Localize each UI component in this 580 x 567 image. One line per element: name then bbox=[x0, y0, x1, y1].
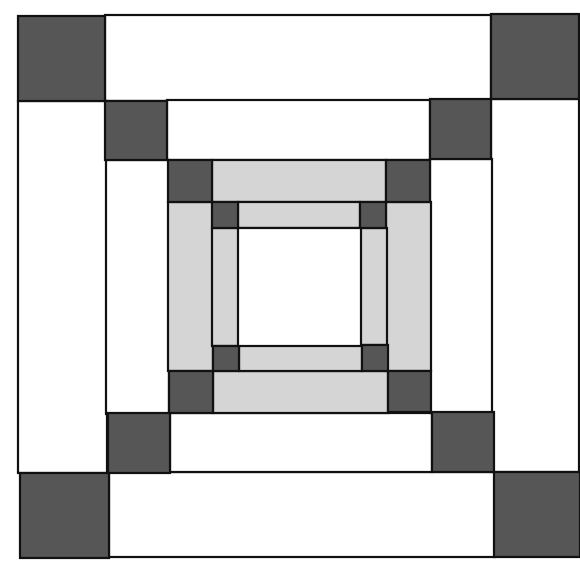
ring3-corner-tr bbox=[386, 160, 430, 202]
ring3-corner-tl bbox=[168, 160, 212, 202]
ring3-top-bar bbox=[212, 160, 386, 202]
ring2-corner-bl bbox=[108, 413, 170, 473]
ring1-right-bar bbox=[491, 99, 579, 472]
ring1-top-bar bbox=[105, 15, 491, 101]
ring4-bottom-bar bbox=[239, 345, 362, 371]
ring2-corner-tr bbox=[430, 99, 491, 159]
ring1-corner-tl bbox=[18, 16, 105, 101]
ring3-corner-bl bbox=[169, 371, 213, 413]
ring2-corner-br bbox=[432, 412, 494, 472]
quilt-block-diagram bbox=[0, 0, 580, 567]
ring1-corner-bl bbox=[20, 473, 109, 558]
quilt-block-svg bbox=[0, 0, 580, 567]
ring2-right-bar bbox=[430, 159, 492, 413]
ring1-bottom-bar bbox=[109, 472, 495, 557]
ring4-corner-br bbox=[362, 345, 388, 371]
ring4-left-bar bbox=[212, 228, 239, 346]
ring1-corner-br bbox=[494, 472, 580, 557]
ring3-corner-br bbox=[388, 371, 431, 412]
ring4-corner-bl bbox=[213, 346, 239, 371]
ring2-left-bar bbox=[106, 160, 169, 414]
center-square bbox=[238, 228, 361, 346]
ring3-right-bar bbox=[386, 202, 431, 371]
ring3-left-bar bbox=[168, 202, 213, 371]
ring1-left-bar bbox=[18, 101, 107, 473]
ring4-top-bar bbox=[238, 202, 360, 228]
ring2-top-bar bbox=[167, 100, 430, 160]
ring1-corner-tr bbox=[491, 14, 579, 99]
ring4-corner-tr bbox=[360, 202, 386, 228]
ring4-corner-tl bbox=[212, 202, 238, 228]
ring4-right-bar bbox=[360, 228, 387, 345]
ring3-bottom-bar bbox=[213, 371, 388, 413]
ring2-bottom-bar bbox=[170, 413, 432, 472]
ring2-corner-tl bbox=[105, 101, 167, 160]
